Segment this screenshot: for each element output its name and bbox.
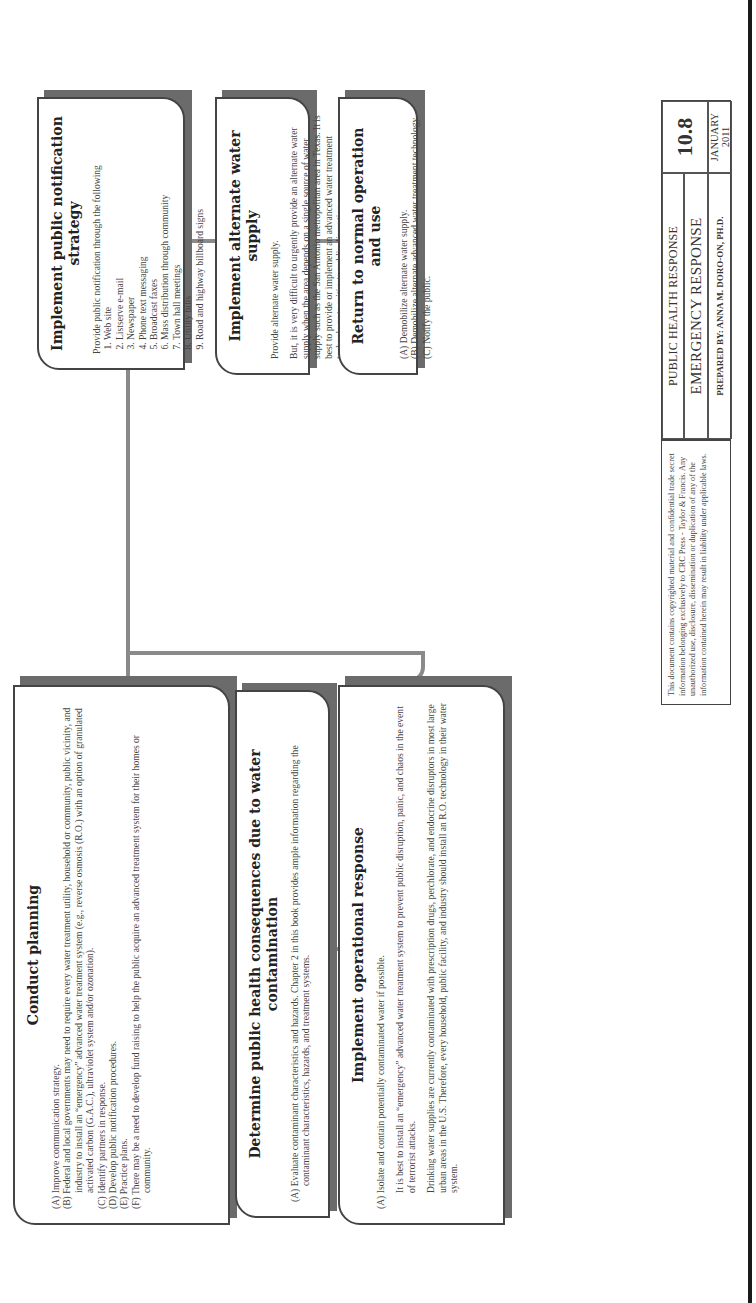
title-block-line2: EMERGENCY RESPONSE — [684, 173, 708, 439]
operational-response-box: Implement operational response (A) Isola… — [338, 685, 505, 1225]
operational-response-paragraph: It is best to install an “emergency” adv… — [394, 701, 417, 1209]
list-item: (A) Isolate and contain potentially cont… — [375, 701, 386, 1209]
public-notification-box: Implement public notification strategy P… — [37, 97, 185, 370]
connector-vertical-trunk — [126, 370, 130, 683]
list-item: (C) Identify partners in response. — [96, 701, 107, 1209]
list-item: (D) Develop public notification procedur… — [107, 701, 118, 1209]
alternate-supply-paragraph: Provide alternate water supply. — [269, 113, 280, 359]
operational-response-paragraph: Drinking water supplies are currently co… — [425, 701, 459, 1209]
return-normal-title: Return to normal operation and use — [350, 113, 384, 359]
determine-consequences-title: Determine public health consequences due… — [247, 706, 281, 1202]
list-item: (B) Federal and local governments may ne… — [61, 701, 95, 1209]
list-item: (A) Demobilize alternate water supply. — [398, 113, 409, 359]
alternate-supply-box: Implement alternate water supply Provide… — [215, 97, 310, 375]
prepared-by: PREPARED BY: ANNA M. DORO-ON, PH.D. — [708, 173, 732, 439]
list-item: Listserve e-mail — [114, 113, 125, 340]
flowchart-page: Conduct planning (A) Improve communicati… — [0, 0, 756, 1303]
determine-consequences-list: (A) Evaluate contaminant characteristics… — [289, 706, 312, 1202]
conduct-planning-title: Conduct planning — [25, 701, 42, 1209]
list-item: Phone text messaging — [137, 113, 148, 340]
alternate-supply-title: Implement alternate water supply — [227, 113, 261, 359]
public-notification-list: Web site Listserve e-mail Newspaper Phon… — [102, 113, 205, 354]
title-block: PUBLIC HEALTH RESPONSE 10.8 EMERGENCY RE… — [661, 100, 731, 440]
list-item: Web site — [102, 113, 113, 340]
operational-response-list: (A) Isolate and contain potentially cont… — [375, 701, 386, 1209]
page-border — [748, 0, 752, 1303]
list-item: Utility bills — [182, 113, 193, 340]
figure-number: 10.8 — [662, 101, 708, 173]
list-item: (A) Evaluate contaminant characteristics… — [289, 706, 312, 1202]
return-normal-box: Return to normal operation and use (A) D… — [338, 97, 418, 375]
connector-horizontal-bus — [126, 651, 421, 655]
list-item: (A) Improve communication strategy. — [50, 701, 61, 1209]
list-item: (B) Demobilize alternate advanced water … — [409, 113, 420, 359]
determine-consequences-box: Determine public health consequences due… — [235, 690, 330, 1218]
list-item: Broadcast faxes — [148, 113, 159, 340]
list-item: (C) Notify the public. — [421, 113, 432, 359]
operational-response-title: Implement operational response — [350, 701, 367, 1209]
list-item: Mass distribution through community — [159, 113, 170, 340]
public-notification-title: Implement public notification strategy — [49, 113, 83, 354]
list-item: Newspaper — [125, 113, 136, 340]
conduct-planning-box: Conduct planning (A) Improve communicati… — [13, 685, 230, 1225]
list-item: (F) There may be a need to develop fund … — [130, 701, 153, 1209]
document-date: JANUARY 2011 — [708, 101, 732, 173]
alternate-supply-paragraph: But, it is very difficult to urgently pr… — [288, 113, 345, 359]
list-item: (E) Practice plans. — [118, 701, 129, 1209]
list-item: Road and highway billboard signs — [194, 113, 205, 340]
copyright-notice: This document contains copyrighted mater… — [661, 440, 731, 705]
list-item: Town hall meetings — [171, 113, 182, 340]
conduct-planning-list: (A) Improve communication strategy. (B) … — [50, 701, 153, 1209]
title-block-line1: PUBLIC HEALTH RESPONSE — [662, 173, 684, 439]
public-notification-intro: Provide public notification through the … — [91, 113, 102, 354]
return-normal-list: (A) Demobilize alternate water supply. (… — [398, 113, 432, 359]
